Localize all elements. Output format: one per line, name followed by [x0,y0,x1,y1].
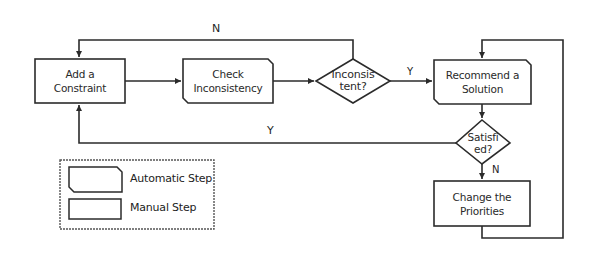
change-priorities-node: Change the Priorities [434,181,530,226]
legend-manual-swatch [69,199,121,219]
change-priorities-label-2: Priorities [460,204,504,218]
satisfied-label-2: ed? [474,143,492,155]
recommend-solution-label-1: Recommend a [446,68,519,82]
inconsistent-decision-node: Inconsis tent? [318,66,388,96]
add-constraint-node: Add a Constraint [35,59,125,103]
legend-automatic-swatch [69,167,122,192]
check-inconsistency-node: Check Inconsistency [183,59,273,103]
edge-label-satisfied-no: N [492,164,499,175]
inconsistent-label-2: tent? [339,81,366,93]
legend-automatic-label: Automatic Step [130,172,212,185]
legend-manual-label: Manual Step [130,201,196,214]
edge-label-satisfied-yes: Y [267,124,274,137]
satisfied-decision-node: Satisfi ed? [458,129,508,157]
add-constraint-label-2: Constraint [54,81,106,95]
add-constraint-label-1: Add a [65,67,94,81]
satisfied-label-1: Satisfi [468,131,499,143]
check-inconsistency-label-2: Inconsistency [193,81,262,95]
change-priorities-label-1: Change the [453,190,512,204]
edge-label-inconsistent-yes: Y [407,66,413,77]
edge-inconsistent-no [79,40,353,59]
recommend-solution-label-2: Solution [462,82,503,96]
edge-label-inconsistent-no: N [212,22,220,35]
recommend-solution-node: Recommend a Solution [434,60,531,104]
check-inconsistency-label-1: Check [212,67,243,81]
